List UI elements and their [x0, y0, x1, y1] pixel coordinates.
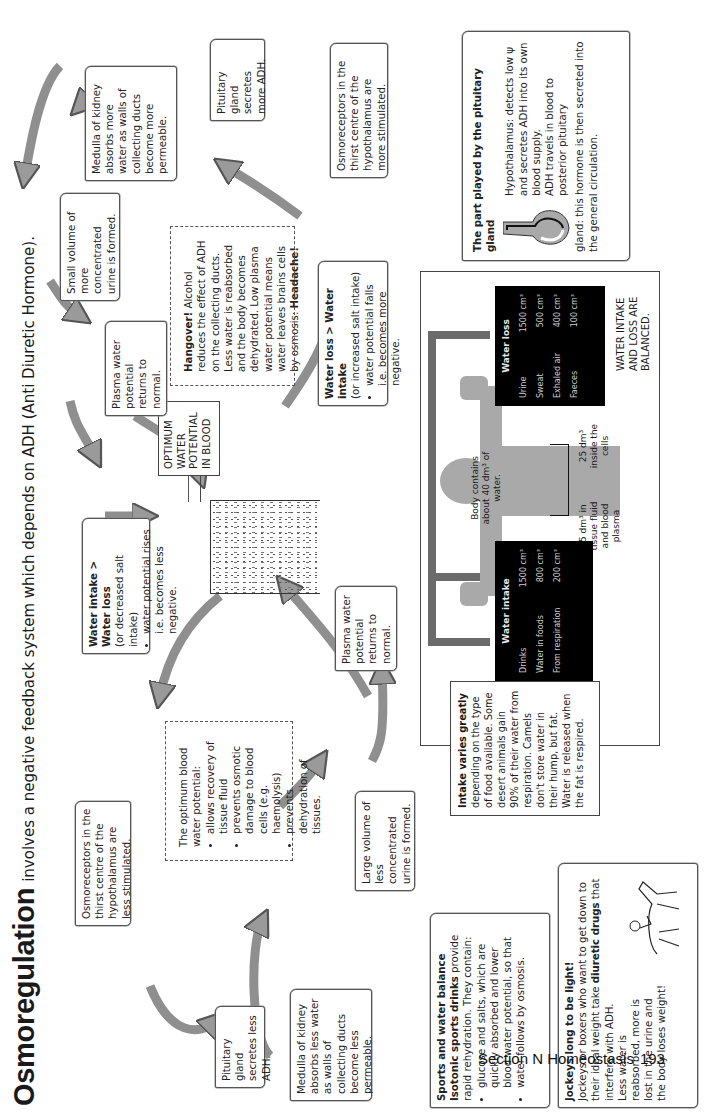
blood-container — [210, 500, 320, 594]
body-water-label: Body contains about 40 dm³ of water. — [470, 448, 503, 528]
balance-bar-left-end — [428, 638, 490, 646]
arrow-urine-to-plasma-high — [70, 401, 95, 456]
lower-pituitary-box: Pituitary gland secretes less ADH. — [215, 1006, 265, 1088]
optimum-label-box: OPTIMUM WATER POTENTIAL IN BLOOD — [158, 401, 220, 476]
optimum-benefits-box: The optimum blood water potential: allow… — [165, 721, 293, 861]
rotated-page: Osmoregulationinvolves a negative feedba… — [0, 0, 708, 1116]
body-bracket — [550, 444, 569, 516]
cells-label: 25 dm³ inside the cells — [578, 416, 611, 476]
upper-medulla-box: Medulla of kidney absorbs more water as … — [85, 66, 177, 181]
page-number: 193 — [640, 1050, 665, 1067]
jockeys-box: Jockeys long to be light! Jockeys or box… — [558, 863, 698, 1108]
loss-row: Faeces100 cm³ — [570, 294, 579, 398]
pituitary-explanation-box: The part played by the pituitary gland H… — [462, 31, 630, 261]
hangover-box: Hangover! Alcohol reduces the effect of … — [170, 226, 295, 386]
loss-row: Sweat500 cm³ — [536, 294, 545, 398]
blood-fluid — [210, 501, 317, 593]
pituitary-gland-icon — [503, 204, 573, 252]
arrow-pituitary-to-medulla-high — [25, 66, 60, 176]
lower-trigger-box: Water intake > Water loss (or decreased … — [82, 518, 150, 654]
lower-urine-box: Large volume of less concentrated urine … — [355, 791, 415, 891]
balanced-label: WATER INTAKE AND LOSS ARE BALANCED. — [615, 276, 653, 371]
loss-row: Exhaled air400 cm³ — [553, 294, 562, 398]
arrow-urine-to-plasma-low — [372, 671, 383, 761]
intake-row: Drinks1500 cm³ — [519, 549, 528, 673]
right-hand — [460, 376, 488, 400]
arrow-trigger-to-osmo-high — [225, 166, 300, 216]
sports-box: Sports and water balance Isotonic sports… — [430, 913, 550, 1108]
upper-trigger-box: Water loss > Water intake (or increased … — [318, 261, 388, 406]
balance-bar-right-end — [428, 331, 490, 339]
lower-plasma-box: Plasma water potential returns to normal… — [335, 586, 397, 671]
lower-osmoreceptors-box: Osmoreceptors in the thirst centre of th… — [75, 801, 131, 926]
page-footer: Section N Homeostasis193 — [478, 1050, 665, 1067]
arrow-osmo-to-pituitary-low — [150, 986, 215, 1030]
loss-row: Urine1500 cm³ — [519, 294, 528, 398]
intake-row: From respiration200 cm³ — [553, 549, 562, 673]
left-hand — [460, 582, 488, 606]
upper-osmoreceptors-box: Osmoreceptors in the thirst centre of th… — [330, 43, 388, 178]
lower-medulla-box: Medulla of kidney absorbs less water as … — [290, 989, 372, 1101]
footer-section: Section N Homeostasis — [478, 1050, 634, 1067]
optimum-leader-line — [188, 476, 189, 502]
balance-bar-horizontal — [428, 331, 436, 646]
upper-urine-box: Small volume of more concentrated urine … — [60, 193, 120, 301]
water-intake-panel: Water intake Drinks1500 cm³ Water in foo… — [495, 541, 593, 681]
jockey-horse-icon — [617, 874, 687, 964]
upper-pituitary-box: Pituitary gland secretes more ADH. — [210, 39, 265, 121]
intake-row: Water in foods800 cm³ — [536, 549, 545, 673]
intake-varies-note-box: Intake varies greatly depending on the t… — [450, 681, 600, 816]
upper-plasma-box: Plasma water potential returns to normal… — [105, 321, 167, 416]
water-loss-panel: Water loss Urine1500 cm³ Sweat500 cm³ Ex… — [495, 286, 605, 406]
